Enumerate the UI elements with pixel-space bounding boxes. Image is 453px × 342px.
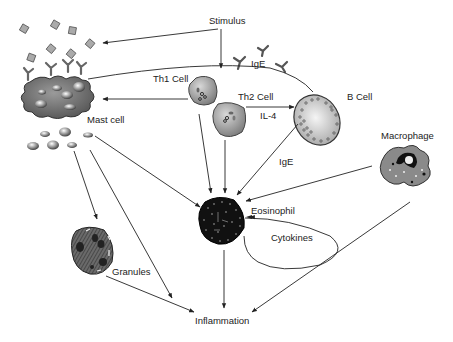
eosinophil [199,197,245,244]
released-granules [27,128,93,151]
label-granules: Granules [112,267,151,277]
diagram-graphics [0,0,453,342]
label-th2-cell: Th2 Cell [238,92,273,102]
label-cytokines: Cytokines [271,233,313,243]
th2-cell [213,103,246,137]
b-cell [285,86,349,153]
label-ige-top: IgE [251,59,265,69]
label-inflammation: Inflammation [195,316,249,326]
label-il4: IL-4 [260,111,276,121]
label-eosinophil: Eosinophil [251,206,295,216]
label-macrophage: Macrophage [381,131,434,141]
antigen-particles [19,20,95,62]
granule-cell [72,227,114,274]
diagram-canvas: Stimulus IgE Th1 Cell Th2 Cell IL-4 B Ce… [0,0,453,342]
label-mast-cell: Mast cell [87,115,124,125]
label-ige-mid: IgE [279,157,293,167]
label-b-cell: B Cell [347,92,372,102]
macrophage [380,145,430,186]
label-th1-cell: Th1 Cell [153,74,188,84]
th1-cell [189,76,217,105]
label-stimulus: Stimulus [209,16,245,26]
mast-cell [21,76,94,119]
